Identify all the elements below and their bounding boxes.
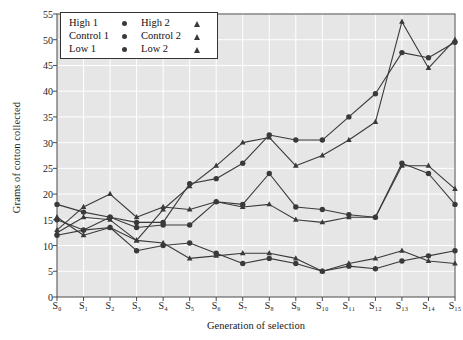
legend-label: Control 1 [67, 29, 114, 42]
data-point-circle [134, 220, 139, 225]
data-point-circle [426, 55, 431, 60]
legend-marker [114, 42, 139, 55]
data-point-circle [267, 171, 272, 176]
legend-table: High 1High 2Control 1Control 2Low 1Low 2 [67, 16, 211, 55]
legend-label: Control 2 [139, 29, 186, 42]
legend-label: Low 2 [139, 42, 186, 55]
x-axis-tick-label: S₁₅ [435, 300, 463, 311]
circle-marker-icon [122, 34, 127, 39]
data-point-circle [134, 225, 139, 230]
legend-row: Control 1Control 2 [67, 29, 211, 42]
data-point-circle [346, 114, 351, 119]
chart-figure: Grams of cotton collected 05101520253035… [0, 0, 463, 340]
x-axis-title: Generation of selection [57, 320, 455, 331]
legend-marker [186, 29, 211, 42]
data-point-circle [134, 248, 139, 253]
data-point-circle [54, 202, 59, 207]
legend-row: High 1High 2 [67, 16, 211, 29]
data-point-circle [373, 91, 378, 96]
triangle-marker-icon [194, 47, 200, 53]
legend-marker [114, 16, 139, 29]
data-point-circle [240, 261, 245, 266]
data-point-circle [160, 222, 165, 227]
data-point-circle [293, 261, 298, 266]
legend-marker [114, 29, 139, 42]
data-point-circle [81, 209, 86, 214]
triangle-marker-icon [194, 21, 200, 27]
legend-row: Low 1Low 2 [67, 42, 211, 55]
data-point-circle [214, 176, 219, 181]
triangle-marker-icon [194, 34, 200, 40]
data-point-circle [452, 202, 457, 207]
data-point-circle [399, 258, 404, 263]
data-point-circle [54, 233, 59, 238]
data-point-circle [399, 50, 404, 55]
legend-marker [186, 42, 211, 55]
data-point-circle [81, 227, 86, 232]
data-point-circle [267, 256, 272, 261]
legend: High 1High 2Control 1Control 2Low 1Low 2 [60, 12, 218, 59]
data-point-circle [373, 266, 378, 271]
data-point-circle [320, 207, 325, 212]
data-point-circle [293, 137, 298, 142]
data-point-circle [293, 204, 298, 209]
data-point-circle [452, 248, 457, 253]
data-point-circle [426, 253, 431, 258]
legend-label: High 1 [67, 16, 114, 29]
data-point-circle [320, 137, 325, 142]
legend-label: Low 1 [67, 42, 114, 55]
data-point-circle [240, 161, 245, 166]
data-point-circle [187, 222, 192, 227]
circle-marker-icon [122, 47, 127, 52]
legend-label: High 2 [139, 16, 186, 29]
circle-marker-icon [122, 21, 127, 26]
data-point-circle [187, 240, 192, 245]
data-point-circle [426, 171, 431, 176]
legend-marker [186, 16, 211, 29]
data-point-circle [107, 215, 112, 220]
